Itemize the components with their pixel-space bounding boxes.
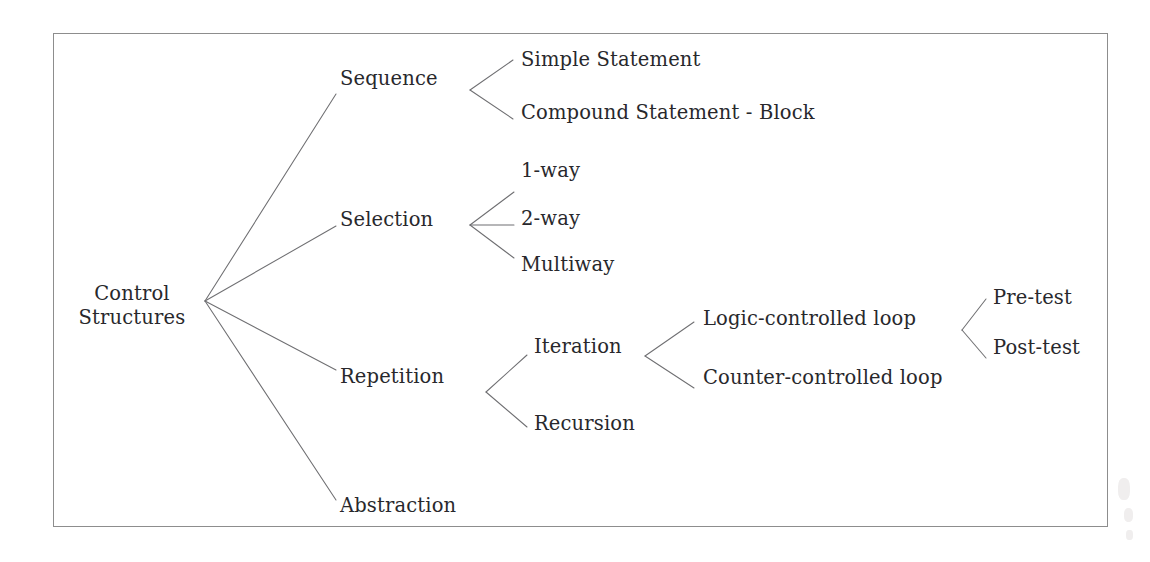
node-multiway: Multiway bbox=[521, 253, 614, 277]
node-counter-controlled-loop: Counter-controlled loop bbox=[703, 366, 943, 390]
node-iteration: Iteration bbox=[534, 335, 622, 359]
scan-noise-artifact bbox=[1118, 478, 1130, 500]
node-simple-statement: Simple Statement bbox=[521, 48, 701, 72]
node-control-structures: Control Structures Control Structures bbox=[66, 282, 198, 331]
node-label-control-line1: Control bbox=[94, 282, 169, 305]
node-logic-controlled-loop: Logic-controlled loop bbox=[703, 307, 916, 331]
node-pre-test: Pre-test bbox=[993, 286, 1072, 310]
scan-noise-artifact bbox=[1126, 530, 1133, 540]
node-repetition: Repetition bbox=[340, 365, 444, 389]
node-abstraction: Abstraction bbox=[340, 494, 456, 518]
node-sequence: Sequence bbox=[340, 67, 438, 91]
node-selection: Selection bbox=[340, 208, 433, 232]
node-label-control-line2: Structures bbox=[79, 306, 186, 329]
diagram-page: Control Structures Control Structures Se… bbox=[0, 0, 1150, 562]
scan-noise-artifact bbox=[1124, 508, 1133, 522]
node-two-way: 2-way bbox=[521, 207, 580, 231]
node-one-way: 1-way bbox=[521, 159, 580, 183]
node-compound-statement-block: Compound Statement - Block bbox=[521, 101, 815, 125]
node-post-test: Post-test bbox=[993, 336, 1080, 360]
node-recursion: Recursion bbox=[534, 412, 635, 436]
